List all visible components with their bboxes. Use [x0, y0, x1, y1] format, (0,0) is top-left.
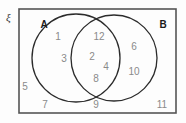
venn-diagram-canvas: ξ A B 1 3 12 2 4 8 6 10 5 7 9 11	[0, 0, 186, 123]
element-value: 6	[131, 41, 137, 52]
venn-diagram-screenshot: ξ A B 1 3 12 2 4 8 6 10 5 7 9 11	[0, 0, 186, 123]
element-value: 1	[55, 31, 61, 42]
element-value: 5	[22, 81, 28, 92]
element-value: 8	[93, 73, 99, 84]
element-value: 4	[103, 61, 109, 72]
element-value: 2	[89, 51, 95, 62]
element-value: 12	[93, 31, 105, 42]
element-value: 11	[157, 99, 168, 110]
set-b-label: B	[159, 19, 166, 30]
set-a-label: A	[40, 19, 47, 30]
element-value: 9	[93, 99, 99, 110]
element-value: 10	[128, 66, 140, 77]
element-value: 3	[61, 53, 67, 64]
universal-set-symbol: ξ	[6, 11, 11, 24]
element-value: 7	[42, 99, 48, 110]
